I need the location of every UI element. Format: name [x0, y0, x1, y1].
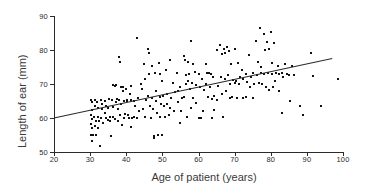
data-point [190, 40, 192, 42]
data-point [159, 96, 161, 98]
data-point [90, 123, 92, 125]
data-point [281, 72, 283, 74]
data-point [189, 88, 191, 90]
data-point [229, 83, 231, 85]
data-point [151, 97, 153, 99]
data-point [101, 103, 103, 105]
data-point [272, 86, 274, 88]
data-point [102, 122, 104, 124]
data-point [128, 117, 130, 119]
data-point [258, 82, 260, 84]
data-point [138, 110, 140, 112]
data-point [267, 72, 269, 74]
data-point [122, 90, 124, 92]
data-point [166, 93, 168, 95]
data-point [337, 78, 339, 80]
data-point [191, 82, 193, 84]
data-point [160, 103, 162, 105]
data-point [114, 118, 116, 120]
data-point [221, 93, 223, 95]
data-point [252, 97, 254, 99]
data-point [242, 97, 244, 99]
data-point [112, 84, 114, 86]
x-tick-label-40: 40 [114, 155, 138, 164]
data-point [151, 65, 153, 67]
data-point [95, 120, 97, 122]
data-point [134, 105, 136, 107]
data-point [142, 108, 144, 110]
data-point [90, 114, 92, 116]
data-point [221, 53, 223, 55]
data-point [184, 59, 186, 61]
data-point [282, 76, 284, 78]
data-point [109, 116, 111, 118]
data-point [166, 103, 168, 105]
data-point [123, 117, 125, 119]
data-point [226, 46, 228, 48]
data-point [199, 86, 201, 88]
data-point [270, 31, 272, 33]
data-point [95, 134, 97, 136]
data-point [260, 66, 262, 68]
data-point [125, 88, 127, 90]
data-point [169, 59, 171, 61]
data-point [209, 86, 211, 88]
scatter-plot-figure: 5060708090 2030405060708090100 Age of pa… [0, 0, 368, 193]
data-point [278, 90, 280, 92]
x-tick-label-100: 100 [331, 155, 355, 164]
data-point [245, 96, 247, 98]
data-point [224, 52, 226, 54]
data-point [222, 116, 224, 118]
y-axis-line [54, 16, 55, 153]
data-point [122, 86, 124, 88]
data-point [293, 74, 295, 76]
data-point [194, 71, 196, 73]
data-point [98, 120, 100, 122]
data-point [216, 99, 218, 101]
data-point [118, 56, 120, 58]
data-point [207, 96, 209, 98]
data-point [245, 73, 247, 75]
data-point [271, 73, 273, 75]
data-point [246, 81, 248, 83]
data-point [212, 76, 214, 78]
data-point [242, 78, 244, 80]
data-point [136, 117, 138, 119]
data-point [284, 63, 286, 65]
data-point [99, 145, 101, 147]
data-point [213, 95, 215, 97]
x-tick-label-70: 70 [223, 155, 247, 164]
data-point [273, 42, 275, 44]
data-point [97, 116, 99, 118]
data-point [185, 74, 187, 76]
data-point [201, 78, 203, 80]
y-tick-label-90: 90 [22, 12, 48, 21]
data-point [149, 105, 151, 107]
data-point [217, 85, 219, 87]
data-point [129, 93, 131, 95]
data-point [170, 97, 172, 99]
data-point [186, 116, 188, 118]
data-point [94, 105, 96, 107]
data-point [271, 62, 273, 64]
data-point [223, 48, 225, 50]
data-point [187, 61, 189, 63]
y-tick-70 [50, 84, 54, 85]
data-point [133, 100, 135, 102]
y-tick-80 [50, 50, 54, 51]
data-point [185, 83, 187, 85]
data-point [260, 72, 262, 74]
data-point [137, 97, 139, 99]
data-point [234, 48, 236, 50]
data-point [159, 73, 161, 75]
x-axis-title: Age of patient (years) [0, 171, 368, 183]
data-point [202, 110, 204, 112]
data-point [148, 52, 150, 54]
data-point [150, 117, 152, 119]
data-point [124, 113, 126, 115]
data-point [156, 112, 158, 114]
data-point [253, 83, 255, 85]
data-point [188, 73, 190, 75]
data-point [277, 65, 279, 67]
data-point [97, 127, 99, 129]
